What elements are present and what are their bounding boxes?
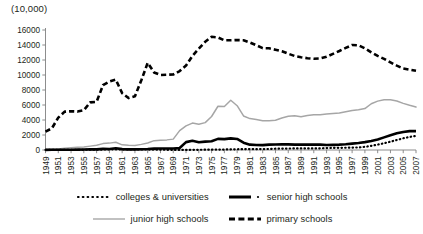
svg-text:1977: 1977 (220, 156, 229, 175)
svg-text:1987: 1987 (284, 156, 293, 175)
legend-item-primary-schools[interactable]: primary schools (227, 214, 333, 224)
svg-text:1969: 1969 (169, 156, 178, 175)
svg-text:1985: 1985 (272, 156, 281, 175)
svg-text:6000: 6000 (22, 101, 41, 110)
svg-text:1989: 1989 (297, 156, 306, 175)
legend-swatch-solid-gray-icon (91, 214, 127, 224)
svg-text:1999: 1999 (361, 156, 370, 175)
svg-text:1973: 1973 (195, 156, 204, 175)
svg-text:1963: 1963 (131, 156, 140, 175)
legend-swatch-dotted-icon (76, 192, 112, 202)
svg-text:2001: 2001 (374, 156, 383, 175)
svg-text:2005: 2005 (399, 156, 408, 175)
chart-container: (10,000) 0200040006000800010000120001400… (0, 0, 423, 234)
svg-text:1959: 1959 (105, 156, 114, 175)
svg-text:1995: 1995 (335, 156, 344, 175)
svg-text:1991: 1991 (310, 156, 319, 175)
series-line-primary-schools (46, 37, 417, 132)
svg-text:1975: 1975 (208, 156, 217, 175)
svg-text:1967: 1967 (157, 156, 166, 175)
legend-label-colleges-universities: colleges & universities (116, 192, 209, 202)
svg-text:1993: 1993 (323, 156, 332, 175)
svg-text:1997: 1997 (348, 156, 357, 175)
legend-swatch-solid-thick-icon (227, 192, 263, 202)
svg-text:1951: 1951 (54, 156, 63, 175)
svg-text:2000: 2000 (22, 131, 41, 140)
legend-item-junior-high-schools[interactable]: junior high schools (91, 214, 209, 224)
svg-text:1961: 1961 (118, 156, 127, 175)
legend-swatch-dashed-icon (227, 214, 263, 224)
legend-label-senior-high-schools: senior high schools (267, 192, 348, 202)
legend-label-primary-schools: primary schools (267, 214, 333, 224)
svg-text:10000: 10000 (17, 71, 40, 80)
plot-area: 0200040006000800010000120001400016000 19… (0, 0, 423, 190)
svg-text:1971: 1971 (182, 156, 191, 175)
chart-svg: 0200040006000800010000120001400016000 19… (0, 0, 423, 190)
svg-text:1955: 1955 (80, 156, 89, 175)
legend-label-junior-high-schools: junior high schools (131, 214, 209, 224)
legend-row-2: junior high schools primary schools (0, 208, 423, 230)
svg-text:12000: 12000 (17, 56, 40, 65)
legend-item-senior-high-schools[interactable]: senior high schools (227, 192, 348, 202)
legend-item-colleges-universities[interactable]: colleges & universities (76, 192, 209, 202)
svg-text:0: 0 (35, 146, 40, 155)
x-axis: 1949195119531955195719591961196319651967… (42, 150, 422, 175)
legend-row-1: colleges & universities senior high scho… (0, 186, 423, 208)
series-lines (46, 37, 417, 150)
svg-text:8000: 8000 (22, 86, 41, 95)
svg-text:4000: 4000 (22, 116, 41, 125)
svg-text:2007: 2007 (412, 156, 421, 175)
svg-text:1981: 1981 (246, 156, 255, 175)
svg-text:2003: 2003 (387, 156, 396, 175)
svg-text:1979: 1979 (233, 156, 242, 175)
svg-text:1949: 1949 (42, 156, 51, 175)
svg-text:1957: 1957 (93, 156, 102, 175)
svg-text:1983: 1983 (259, 156, 268, 175)
svg-text:1965: 1965 (144, 156, 153, 175)
svg-text:14000: 14000 (17, 41, 40, 50)
chart-legend: colleges & universities senior high scho… (0, 186, 423, 234)
svg-text:16000: 16000 (17, 26, 40, 35)
y-axis: 0200040006000800010000120001400016000 (17, 26, 45, 155)
svg-text:1953: 1953 (67, 156, 76, 175)
